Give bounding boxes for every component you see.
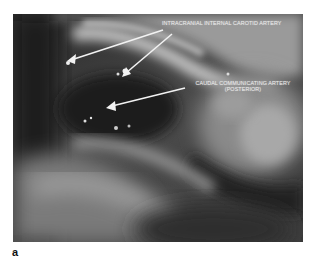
annotation-posterior-communicating-artery: CAUDAL COMMUNICATING ARTERY (POSTERIOR) bbox=[188, 80, 298, 92]
photo-scene bbox=[13, 14, 303, 242]
endoscopic-photo: INTRACRANIAL INTERNAL CAROTID ARTERY CAU… bbox=[13, 14, 303, 242]
annotation-internal-carotid-artery: INTRACRANIAL INTERNAL CAROTID ARTERY bbox=[162, 20, 282, 26]
panel-label: a bbox=[12, 247, 18, 258]
figure: INTRACRANIAL INTERNAL CAROTID ARTERY CAU… bbox=[0, 0, 320, 259]
annotation-pcom-line2: (POSTERIOR) bbox=[188, 86, 298, 92]
annotation-ica-text: INTRACRANIAL INTERNAL CAROTID ARTERY bbox=[162, 20, 282, 26]
